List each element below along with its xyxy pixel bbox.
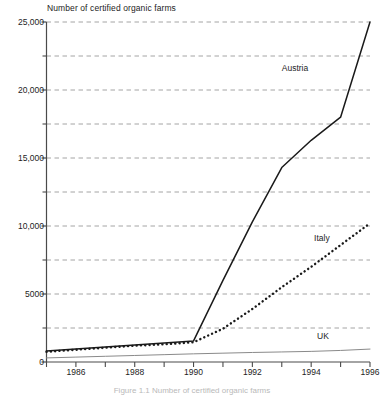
x-axis-tick-label: 1988 [125, 368, 144, 377]
x-axis-tick-label: 1994 [302, 368, 321, 377]
y-axis-tick-label: 0 [6, 358, 44, 367]
series-label-italy: Italy [314, 234, 330, 243]
y-axis-tick-label: 10,000 [6, 222, 44, 231]
series-line-uk [47, 349, 371, 358]
chart-container: Number of certified organic farms 050001… [0, 0, 384, 395]
x-axis-tick-label: 1990 [184, 368, 203, 377]
figure-caption: Figure 1.1 Number of certified organic f… [0, 386, 384, 395]
series-label-austria: Austria [282, 64, 308, 73]
y-axis-tick-label: 15,000 [6, 154, 44, 163]
x-axis-tick-label: 1992 [243, 368, 262, 377]
y-axis-tick-label: 25,000 [6, 18, 44, 27]
x-axis-tick-label: 1986 [66, 368, 85, 377]
x-axis-tick-label: 1996 [361, 368, 380, 377]
series-label-uk: UK [317, 332, 329, 341]
y-axis-tick-label: 20,000 [6, 86, 44, 95]
y-axis-tick-label: 5000 [6, 290, 44, 299]
series-line-austria [47, 22, 371, 351]
